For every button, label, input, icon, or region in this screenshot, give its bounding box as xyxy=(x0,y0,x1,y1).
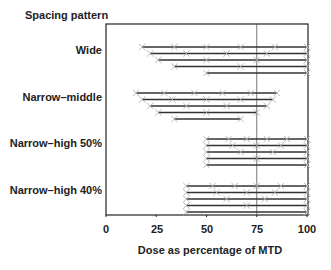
x-tick-50: 50 xyxy=(201,223,213,235)
x-tick-0: 0 xyxy=(103,223,109,235)
group-label-wide: Wide xyxy=(76,44,102,56)
plot-area xyxy=(106,24,310,217)
x-tick-25: 25 xyxy=(151,223,163,235)
group-label-narrow-middle: Narrow–middle xyxy=(23,91,102,103)
group-label-narrow-high-50: Narrow–high 50% xyxy=(10,137,103,149)
x-tick-75: 75 xyxy=(251,223,263,235)
chart-title: Spacing pattern xyxy=(25,9,108,21)
group-label-narrow-high-40: Narrow–high 40% xyxy=(10,184,103,196)
chart: Spacing pattern Wide Narrow–middle Narro… xyxy=(0,0,331,270)
x-axis-label: Dose as percentage of MTD xyxy=(138,244,282,256)
x-tick-100: 100 xyxy=(298,223,316,235)
